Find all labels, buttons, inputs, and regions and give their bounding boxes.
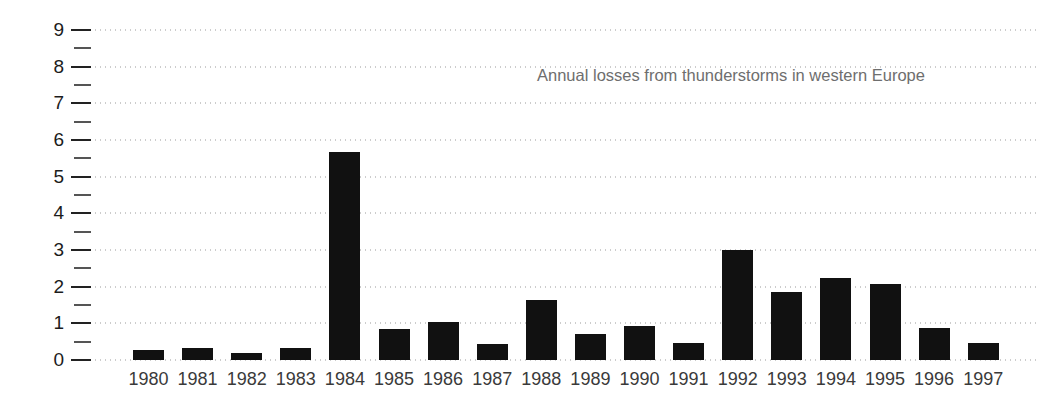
bar-1996 <box>919 328 950 360</box>
y-axis-tick-mark <box>71 176 91 178</box>
x-axis-label-1994: 1994 <box>816 368 856 391</box>
y-axis-tick-mark <box>71 286 91 288</box>
x-axis-label-1989: 1989 <box>570 368 610 391</box>
y-axis-tick-label: 7 <box>53 93 64 113</box>
y-axis-tick-label: 2 <box>53 277 64 297</box>
bar-1988 <box>526 300 557 361</box>
y-axis-tick-mark <box>71 359 91 361</box>
x-axis-label-1982: 1982 <box>227 368 267 391</box>
chart-annotation: Annual losses from thunderstorms in west… <box>537 62 949 88</box>
y-axis-tick-label: 6 <box>53 130 64 150</box>
x-axis-label-1992: 1992 <box>718 368 758 391</box>
gridline-9 <box>95 30 1040 31</box>
y-axis-tick-mark <box>71 66 91 68</box>
x-axis-label-1996: 1996 <box>914 368 954 391</box>
y-axis-tick-label: 8 <box>53 57 64 77</box>
y-axis-tick-label: 9 <box>53 20 64 40</box>
gridline-5 <box>95 176 1040 177</box>
gridline-7 <box>95 103 1040 104</box>
y-axis-tick-label: 1 <box>53 313 64 333</box>
y-axis-minor-tick <box>74 194 91 196</box>
gridline-3 <box>95 250 1040 251</box>
x-axis-label-1986: 1986 <box>423 368 463 391</box>
bar-1993 <box>771 292 802 360</box>
x-axis-label-1983: 1983 <box>276 368 316 391</box>
y-axis-tick-mark <box>71 102 91 104</box>
y-axis-tick-mark <box>71 322 91 324</box>
y-axis-tick-label: 4 <box>53 203 64 223</box>
y-axis-minor-tick <box>74 341 91 343</box>
bar-1989 <box>575 334 606 360</box>
x-axis-label-1988: 1988 <box>521 368 561 391</box>
y-axis-tick-mark <box>71 139 91 141</box>
bar-1992 <box>722 250 753 360</box>
y-axis-minor-tick <box>74 84 91 86</box>
bar-1995 <box>870 284 901 360</box>
bar-1981 <box>182 348 213 360</box>
y-axis-minor-tick <box>74 267 91 269</box>
x-axis-label-1981: 1981 <box>178 368 218 391</box>
plot-area <box>95 0 1040 404</box>
x-axis-label-1990: 1990 <box>619 368 659 391</box>
bar-chart: 0123456789 19801981198219831984198519861… <box>0 0 1045 404</box>
bar-1986 <box>428 322 459 361</box>
x-axis-label-1991: 1991 <box>669 368 709 391</box>
y-axis-minor-tick <box>74 121 91 123</box>
y-axis-minor-tick <box>74 157 91 159</box>
x-axis: 1980198119821983198419851986198719881989… <box>95 368 1040 398</box>
bar-1982 <box>231 353 262 360</box>
bar-1997 <box>968 343 999 360</box>
y-axis-tick-mark <box>71 29 91 31</box>
bar-1984 <box>329 152 360 360</box>
y-axis: 0123456789 <box>0 0 95 404</box>
y-axis-tick-label: 3 <box>53 240 64 260</box>
x-axis-label-1993: 1993 <box>767 368 807 391</box>
bar-1983 <box>280 348 311 360</box>
x-axis-label-1984: 1984 <box>325 368 365 391</box>
y-axis-tick-mark <box>71 212 91 214</box>
x-axis-label-1985: 1985 <box>374 368 414 391</box>
y-axis-tick-label: 5 <box>53 167 64 187</box>
x-axis-label-1997: 1997 <box>963 368 1003 391</box>
x-axis-label-1995: 1995 <box>865 368 905 391</box>
x-axis-label-1987: 1987 <box>472 368 512 391</box>
bar-1994 <box>820 278 851 361</box>
bar-1990 <box>624 326 655 360</box>
x-axis-label-1980: 1980 <box>128 368 168 391</box>
gridline-6 <box>95 140 1040 141</box>
bar-1985 <box>379 329 410 360</box>
bar-1987 <box>477 344 508 360</box>
bar-1991 <box>673 343 704 360</box>
y-axis-minor-tick <box>74 304 91 306</box>
y-axis-tick-label: 0 <box>53 350 64 370</box>
bar-1980 <box>133 350 164 360</box>
y-axis-tick-mark <box>71 249 91 251</box>
y-axis-minor-tick <box>74 231 91 233</box>
gridline-4 <box>95 213 1040 214</box>
y-axis-minor-tick <box>74 47 91 49</box>
